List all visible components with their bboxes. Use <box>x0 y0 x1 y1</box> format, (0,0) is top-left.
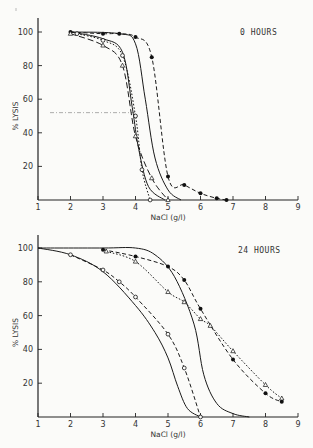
series-line-2 <box>71 255 201 417</box>
y-tick-label: 100 <box>18 244 33 253</box>
open-circle-marker <box>140 168 144 172</box>
x-tick-label: 5 <box>165 420 170 429</box>
open-circle-marker <box>69 253 73 257</box>
x-tick-label: 4 <box>133 203 138 212</box>
lysis-charts: 12345678920406080100NaCl (g/l)% LYSIS0 H… <box>0 0 313 448</box>
filled-circle-marker <box>101 248 105 252</box>
y-tick-label: 40 <box>23 345 33 354</box>
open-circle-marker <box>117 280 121 284</box>
y-tick-label: 60 <box>23 312 33 321</box>
y-tick-label: 20 <box>23 379 33 388</box>
x-axis-title: NaCl (g/l) <box>150 213 185 222</box>
y-tick-label: 100 <box>18 28 33 37</box>
open-circle-marker <box>101 268 105 272</box>
open-circle-marker <box>134 295 138 299</box>
filled-circle-marker <box>182 183 186 187</box>
filled-circle-marker <box>199 191 203 195</box>
filled-circle-marker <box>199 307 203 311</box>
open-triangle-marker <box>150 176 154 180</box>
y-tick-label: 60 <box>23 95 33 104</box>
open-circle-marker <box>182 366 186 370</box>
x-tick-label: 8 <box>263 420 268 429</box>
open-circle-marker <box>75 32 79 36</box>
chart-panel-0: 12345678920406080100NaCl (g/l)% LYSIS0 H… <box>11 18 301 222</box>
x-tick-label: 3 <box>100 420 105 429</box>
filled-circle-marker <box>225 198 229 202</box>
x-tick-label: 4 <box>133 420 138 429</box>
filled-circle-marker <box>134 254 138 258</box>
open-triangle-marker <box>120 63 124 67</box>
filled-circle-marker <box>150 55 154 59</box>
open-triangle-marker <box>133 259 137 263</box>
open-circle-marker <box>148 198 152 202</box>
series-line-3 <box>71 34 169 200</box>
y-axis-title: % LYSIS <box>11 318 20 347</box>
filled-circle-marker <box>166 265 170 269</box>
series-line-0 <box>38 248 249 417</box>
x-tick-label: 9 <box>295 203 300 212</box>
x-tick-label: 1 <box>35 420 40 429</box>
open-circle-marker <box>134 114 138 118</box>
panel-title: 24 HOURS <box>238 246 281 255</box>
x-tick-label: 9 <box>295 420 300 429</box>
chart-panel-1: 12345678920406080100NaCl (g/l)% LYSIS24 … <box>11 235 301 439</box>
open-circle-marker <box>121 54 125 58</box>
open-triangle-marker <box>166 290 170 294</box>
x-tick-label: 6 <box>198 203 203 212</box>
x-tick-label: 7 <box>230 203 235 212</box>
open-circle-marker <box>199 415 203 419</box>
filled-circle-marker <box>231 358 235 362</box>
filled-circle-marker <box>280 400 284 404</box>
y-tick-label: 40 <box>23 129 33 138</box>
x-tick-label: 3 <box>100 203 105 212</box>
x-tick-label: 6 <box>198 420 203 429</box>
y-tick-label: 80 <box>23 62 33 71</box>
x-tick-label: 8 <box>263 203 268 212</box>
series-line-3 <box>103 250 282 402</box>
x-tick-label: 1 <box>35 203 40 212</box>
series-line-1 <box>38 248 201 417</box>
open-triangle-marker <box>208 323 212 327</box>
filled-circle-marker <box>134 35 138 39</box>
x-tick-label: 5 <box>165 203 170 212</box>
open-circle-marker <box>166 332 170 336</box>
filled-circle-marker <box>264 391 268 395</box>
filled-circle-marker <box>215 196 219 200</box>
filled-circle-marker <box>182 278 186 282</box>
open-triangle-marker <box>280 396 284 400</box>
panel-title: 0 HOURS <box>240 28 277 37</box>
x-tick-label: 2 <box>68 420 73 429</box>
open-circle-marker <box>101 39 105 43</box>
x-tick-label: 2 <box>68 203 73 212</box>
open-triangle-marker <box>133 134 137 138</box>
filled-circle-marker <box>166 174 170 178</box>
series-line-1 <box>71 32 182 200</box>
series-line-0 <box>71 32 227 200</box>
x-axis-title: NaCl (g/l) <box>150 430 185 439</box>
open-triangle-marker <box>231 349 235 353</box>
y-tick-label: 80 <box>23 278 33 287</box>
y-axis-title: % LYSIS <box>11 101 20 130</box>
x-tick-label: 7 <box>230 420 235 429</box>
y-tick-label: 20 <box>23 162 33 171</box>
